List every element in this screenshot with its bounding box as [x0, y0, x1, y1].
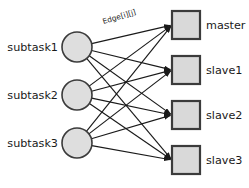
- node-subtask1[interactable]: [62, 32, 92, 62]
- graph-canvas: subtask1subtask2subtask3 masterslave1sla…: [0, 0, 249, 188]
- node-slave1[interactable]: [172, 56, 200, 84]
- node-label-slave2: slave2: [206, 109, 242, 122]
- node-subtask2[interactable]: [62, 80, 92, 110]
- node-label-subtask1: subtask1: [7, 41, 58, 54]
- edge-label-group: Edge[i][j]: [102, 7, 137, 26]
- node-slave2[interactable]: [172, 101, 200, 129]
- right-nodes-group: masterslave1slave2slave3: [172, 11, 246, 174]
- node-label-slave3: slave3: [206, 154, 242, 167]
- node-label-master: master: [206, 19, 246, 32]
- edge-subtask3-to-slave1: [89, 71, 171, 134]
- node-subtask3[interactable]: [62, 128, 92, 158]
- edge-subtask3-to-slave3: [92, 146, 171, 160]
- edge-subtask1-to-slave1: [92, 51, 171, 70]
- bipartite-graph-diagram: subtask1subtask2subtask3 masterslave1sla…: [0, 0, 249, 188]
- edge-subtask3-to-slave2: [91, 115, 170, 138]
- node-slave3[interactable]: [172, 146, 200, 174]
- edge-index-label: Edge[i][j]: [102, 7, 137, 26]
- node-label-slave1: slave1: [206, 64, 242, 77]
- node-label-subtask3: subtask3: [7, 137, 58, 150]
- node-master[interactable]: [172, 11, 200, 39]
- node-label-subtask2: subtask2: [7, 89, 58, 102]
- edge-subtask1-to-slave2: [89, 56, 171, 114]
- left-nodes-group: subtask1subtask2subtask3: [7, 32, 92, 158]
- edges-group: [86, 25, 171, 159]
